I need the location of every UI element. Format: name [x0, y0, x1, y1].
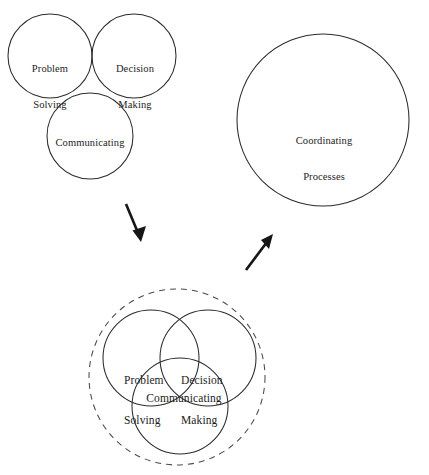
label-coordinating-processes-line2: Processes — [282, 171, 366, 183]
diagram-canvas: Problem Solving Decision Making Communic… — [0, 0, 429, 475]
label-problem-solving-top-line1: Problem — [17, 63, 83, 75]
label-decision-making-top-line2: Making — [102, 99, 168, 111]
label-communicating-bottom-text: Communicating — [136, 392, 232, 405]
label-communicating-top: Communicating — [50, 113, 130, 173]
arrow-down-left-head — [133, 226, 147, 242]
label-communicating-top-text: Communicating — [50, 137, 130, 149]
label-coordinating-processes-line1: Coordinating — [282, 135, 366, 147]
label-problem-solving-top-line2: Solving — [17, 99, 83, 111]
arrow-up-right — [246, 234, 273, 270]
label-coordinating-processes: Coordinating Processes — [282, 111, 366, 207]
label-communicating-bottom: Communicating — [136, 366, 232, 432]
label-decision-making-top-line1: Decision — [102, 63, 168, 75]
arrow-down-left — [126, 204, 146, 242]
arrow-up-right-shaft — [246, 242, 267, 270]
